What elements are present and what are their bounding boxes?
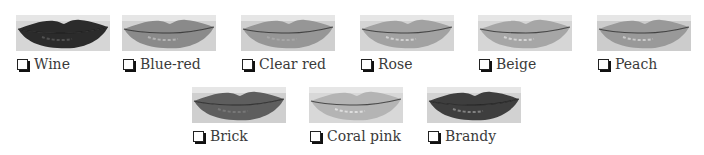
option-coral-pink[interactable]: Coral pink [310, 129, 405, 143]
option-beige[interactable]: Beige [479, 57, 574, 71]
option-label: Peach [615, 57, 657, 71]
option-label: Brick [210, 129, 248, 143]
option-brick[interactable]: Brick [193, 129, 288, 143]
lip-color-sample-image [16, 15, 110, 51]
lip-color-sample-image [597, 15, 691, 51]
option-label: Coral pink [327, 129, 401, 143]
checkbox-icon[interactable] [193, 131, 204, 142]
swatch-brick: Brick [192, 87, 288, 143]
lip-color-sample-image [192, 87, 286, 123]
swatch-wine: Wine [16, 15, 112, 71]
lip-color-sample-image [309, 87, 403, 123]
lip-color-sample-image [241, 15, 335, 51]
checkbox-icon[interactable] [17, 59, 28, 70]
checkbox-icon[interactable] [123, 59, 134, 70]
checkbox-icon[interactable] [310, 131, 321, 142]
option-wine[interactable]: Wine [17, 57, 112, 71]
option-label: Clear red [259, 57, 326, 71]
swatch-peach: Peach [597, 15, 693, 71]
swatch-blue-red: Blue-red [122, 15, 218, 71]
option-label: Beige [496, 57, 536, 71]
checkbox-icon[interactable] [479, 59, 490, 70]
option-label: Blue-red [140, 57, 201, 71]
option-label: Brandy [445, 129, 496, 143]
checkbox-icon[interactable] [361, 59, 372, 70]
lip-color-sample-image [122, 15, 216, 51]
swatch-rose: Rose [360, 15, 456, 71]
option-clear-red[interactable]: Clear red [242, 57, 337, 71]
lip-color-sample-image [478, 15, 572, 51]
checkbox-icon[interactable] [242, 59, 253, 70]
lip-color-sample-image [427, 87, 521, 123]
swatch-clear-red: Clear red [241, 15, 337, 71]
checkbox-icon[interactable] [428, 131, 439, 142]
swatch-brandy: Brandy [427, 87, 523, 143]
lip-color-sample-image [360, 15, 454, 51]
swatch-beige: Beige [478, 15, 574, 71]
option-blue-red[interactable]: Blue-red [123, 57, 218, 71]
option-label: Wine [34, 57, 70, 71]
option-brandy[interactable]: Brandy [428, 129, 523, 143]
option-rose[interactable]: Rose [361, 57, 456, 71]
swatch-coral-pink: Coral pink [309, 87, 405, 143]
checkbox-icon[interactable] [598, 59, 609, 70]
option-peach[interactable]: Peach [598, 57, 693, 71]
option-label: Rose [378, 57, 412, 71]
